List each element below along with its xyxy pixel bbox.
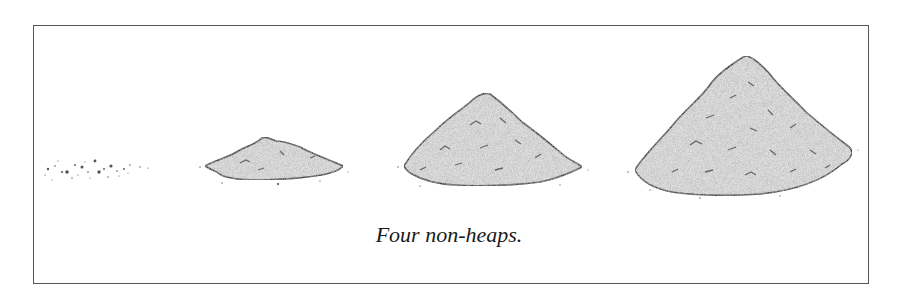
- pile-medium: [397, 93, 588, 186]
- pile-scattered-grains: [44, 160, 148, 181]
- pile-large: [627, 56, 858, 199]
- pile-small: [199, 137, 348, 185]
- figure-caption: Four non-heaps.: [0, 222, 898, 248]
- heaps-illustration: [0, 0, 898, 305]
